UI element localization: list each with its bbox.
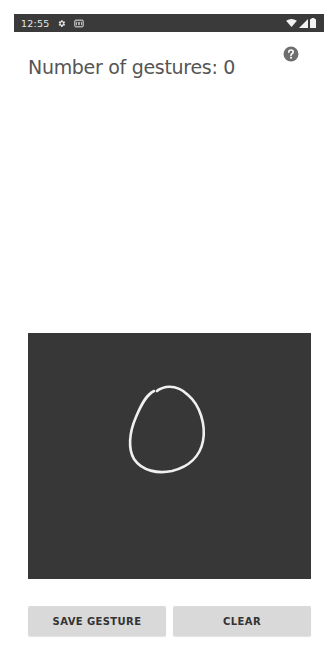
help-circle-icon[interactable] xyxy=(283,46,299,62)
status-bar-right xyxy=(286,18,316,28)
gesture-stroke xyxy=(28,333,311,579)
status-time: 12:55 xyxy=(21,18,49,29)
header: Number of gestures: 0 xyxy=(14,32,324,82)
status-bar-left: 12:55 xyxy=(21,18,84,29)
wifi-icon xyxy=(286,19,297,28)
cellular-signal-icon xyxy=(299,19,308,28)
sim-card-icon xyxy=(74,19,84,28)
battery-icon xyxy=(310,18,316,28)
save-gesture-button[interactable]: SAVE GESTURE xyxy=(28,606,166,636)
gesture-drawing-canvas[interactable] xyxy=(28,333,311,579)
settings-gear-icon xyxy=(57,19,66,28)
clear-button[interactable]: CLEAR xyxy=(173,606,311,636)
app-screen: 12:55 xyxy=(14,0,324,660)
gesture-count-title: Number of gestures: 0 xyxy=(28,56,235,78)
status-bar: 12:55 xyxy=(14,14,324,32)
action-buttons: SAVE GESTURE CLEAR xyxy=(28,606,311,636)
